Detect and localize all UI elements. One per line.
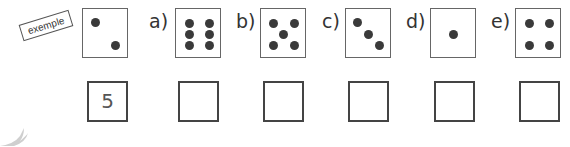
- answer-box-c[interactable]: [348, 81, 389, 122]
- label-d: d): [406, 10, 425, 32]
- pip: [205, 30, 214, 39]
- pip: [279, 30, 288, 39]
- pip: [545, 19, 554, 28]
- pip: [290, 41, 299, 50]
- pip: [185, 41, 194, 50]
- pip: [91, 18, 100, 27]
- pip: [185, 30, 194, 39]
- pip: [375, 41, 384, 50]
- die-c: [345, 8, 391, 58]
- bird-decoration-icon: [0, 128, 30, 147]
- label-b: b): [236, 10, 255, 32]
- example-stamp: exemple: [19, 10, 74, 41]
- pip: [545, 41, 554, 50]
- answer-box-a[interactable]: [178, 81, 219, 122]
- die-e: [515, 8, 561, 58]
- pip: [290, 19, 299, 28]
- label-e: e): [491, 10, 510, 32]
- pip: [205, 19, 214, 28]
- answer-box-example: 5: [87, 81, 128, 122]
- die-b: [260, 8, 306, 58]
- pip: [364, 30, 373, 39]
- label-c: c): [322, 10, 340, 32]
- die-a: [175, 8, 221, 58]
- pip: [269, 41, 278, 50]
- pip: [525, 19, 534, 28]
- pip: [449, 30, 458, 39]
- die-example: [82, 8, 128, 58]
- pip: [353, 18, 362, 27]
- answer-box-d[interactable]: [434, 81, 475, 122]
- die-d: [430, 8, 476, 58]
- label-a: a): [149, 10, 168, 32]
- answer-box-b[interactable]: [263, 81, 304, 122]
- pip: [111, 41, 120, 50]
- pip: [525, 41, 534, 50]
- pip: [205, 41, 214, 50]
- answer-box-e[interactable]: [519, 81, 560, 122]
- pip: [185, 19, 194, 28]
- pip: [269, 19, 278, 28]
